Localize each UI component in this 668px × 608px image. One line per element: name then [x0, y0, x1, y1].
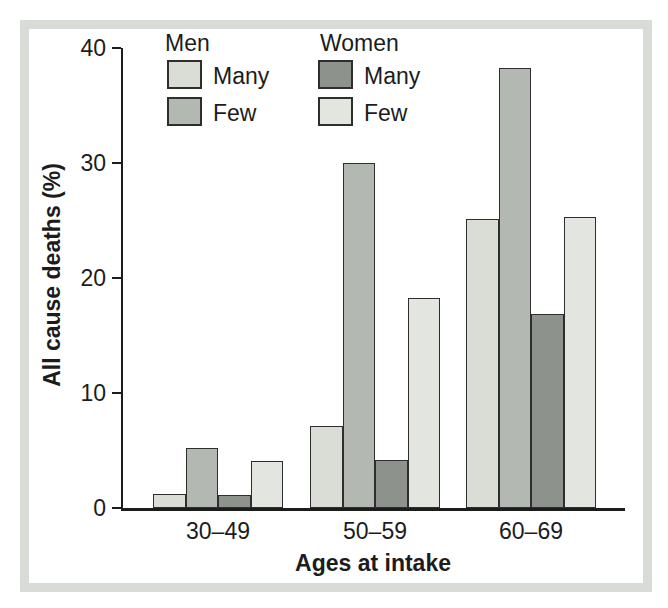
legend-men-many-swatch [167, 60, 202, 89]
bar-men-few-group1 [186, 448, 219, 508]
x-category-label-1: 30–49 [153, 518, 283, 545]
y-tick-40 [112, 47, 121, 49]
bar-women-few-group2 [408, 298, 441, 508]
bar-women-many-group3 [531, 314, 564, 508]
bar-women-few-group3 [564, 217, 597, 508]
x-axis-line [121, 508, 625, 511]
y-tick-label-0: 0 [54, 494, 106, 522]
bar-men-few-group3 [499, 68, 532, 508]
legend-men-few-swatch [167, 97, 202, 126]
x-category-label-2: 50–59 [310, 518, 440, 545]
bar-men-few-group2 [343, 163, 376, 508]
bar-men-many-group2 [310, 426, 343, 508]
legend-men-many-label: Many [213, 62, 269, 91]
y-tick-label-20: 20 [54, 264, 106, 292]
figure-page: All cause deaths (%) Ages at intake Men … [0, 0, 668, 608]
legend-women-few-label: Few [364, 99, 407, 128]
legend-men-few-label: Few [213, 99, 256, 128]
x-axis-title: Ages at intake [243, 550, 503, 577]
legend-women-title: Women [320, 30, 399, 57]
y-tick-20 [112, 277, 121, 279]
bar-men-many-group1 [153, 494, 186, 508]
bar-women-many-group2 [375, 460, 408, 508]
bar-women-many-group1 [218, 495, 251, 508]
plot-area: All cause deaths (%) Ages at intake Men … [0, 0, 668, 608]
y-tick-label-40: 40 [54, 34, 106, 62]
x-category-label-3: 60–69 [466, 518, 596, 545]
bar-men-many-group3 [466, 219, 499, 508]
legend-women-few-swatch [318, 97, 353, 126]
legend-men-title: Men [165, 30, 210, 57]
legend-women-many-label: Many [364, 62, 420, 91]
y-tick-10 [112, 392, 121, 394]
y-axis-line [121, 48, 123, 510]
bar-women-few-group1 [251, 461, 284, 508]
y-tick-0 [112, 507, 121, 509]
legend-women-many-swatch [318, 60, 353, 89]
y-tick-label-10: 10 [54, 379, 106, 407]
y-tick-30 [112, 162, 121, 164]
y-tick-label-30: 30 [54, 149, 106, 177]
